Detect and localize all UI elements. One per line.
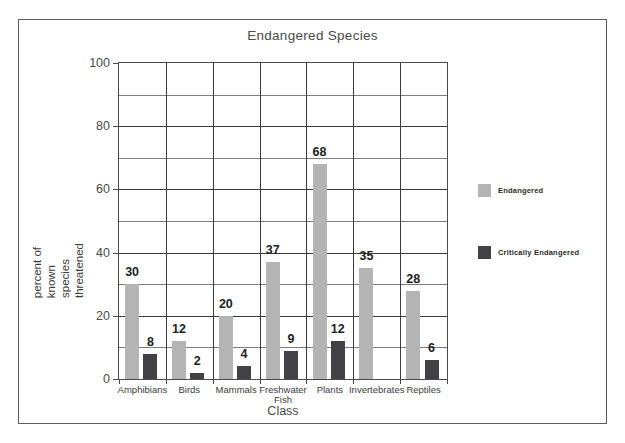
bar-endangered-birds: [172, 341, 186, 379]
y-axis-title-line: percent of: [31, 247, 44, 298]
legend-item-critically-endangered[interactable]: Critically Endangered: [478, 246, 579, 259]
bar-endangered-mammals: [219, 316, 233, 379]
y-axis-tick-mark: [113, 253, 119, 254]
bar-critical-birds: [190, 373, 204, 379]
bar-value-label: 8: [147, 335, 154, 349]
gridline-vertical: [213, 63, 214, 379]
bar-endangered-amphibians: [125, 284, 139, 379]
gridline-horizontal: [119, 95, 447, 96]
figure-canvas: Endangered Species 020406080100308Amphib…: [0, 0, 625, 443]
bar-value-label: 35: [359, 249, 373, 263]
gridline-vertical: [166, 63, 167, 379]
bar-value-label: 20: [219, 297, 233, 311]
bar-endangered-freshwater-fish: [266, 262, 280, 379]
bar-critical-reptiles: [425, 360, 439, 379]
y-axis-tick-mark: [113, 316, 119, 317]
bar-value-label: 2: [194, 354, 201, 368]
x-axis-tick-mark: [400, 379, 401, 384]
gridline-horizontal: [119, 158, 447, 159]
legend-item-endangered[interactable]: Endangered: [478, 184, 543, 197]
gridline-vertical: [306, 63, 307, 379]
plot-area: 020406080100308Amphibians122Birds204Mamm…: [118, 62, 448, 380]
gridline-horizontal: [119, 347, 447, 348]
bar-critical-amphibians: [143, 354, 157, 379]
y-axis-tick-mark: [113, 189, 119, 190]
bar-value-label: 30: [125, 265, 139, 279]
bar-endangered-invertebrates: [359, 268, 373, 379]
x-axis-title: Class: [118, 404, 448, 418]
bar-value-label: 28: [406, 272, 420, 286]
bar-endangered-reptiles: [406, 291, 420, 379]
y-axis-title-line: species: [59, 259, 72, 298]
gridline-vertical: [353, 63, 354, 379]
x-axis-category-label: Reptiles: [406, 385, 440, 395]
x-axis-category-label: Birds: [178, 385, 200, 395]
chart-title: Endangered Species: [18, 28, 607, 43]
bar-value-label: 6: [428, 341, 435, 355]
gridline-horizontal: [119, 253, 447, 254]
bar-critical-plants: [331, 341, 345, 379]
bar-value-label: 37: [266, 243, 280, 257]
x-axis-category-label: Mammals: [216, 385, 257, 395]
bar-value-label: 12: [172, 322, 186, 336]
bar-critical-freshwater-fish: [284, 351, 298, 379]
x-axis-category-label: Amphibians: [118, 385, 168, 395]
x-axis-category-label: Freshwater Fish: [259, 385, 307, 405]
bar-value-label: 4: [241, 347, 248, 361]
x-axis-category-label: Plants: [317, 385, 343, 395]
y-axis-tick-mark: [113, 126, 119, 127]
gridline-horizontal: [119, 221, 447, 222]
gridline-horizontal: [119, 126, 447, 127]
x-axis-category-label: Invertebrates: [349, 385, 404, 395]
x-axis-tick-mark: [447, 379, 448, 384]
x-axis-tick-mark: [166, 379, 167, 384]
legend-label: Endangered: [498, 186, 543, 195]
gridline-horizontal: [119, 284, 447, 285]
gridline-horizontal: [119, 316, 447, 317]
bar-critical-mammals: [237, 366, 251, 379]
bar-value-label: 68: [313, 145, 327, 159]
bar-endangered-plants: [313, 164, 327, 379]
gridline-horizontal: [119, 189, 447, 190]
bar-value-label: 12: [331, 322, 345, 336]
y-axis-tick-mark: [113, 63, 119, 64]
legend-swatch-icon: [478, 184, 491, 197]
legend-swatch-icon: [478, 246, 491, 259]
y-axis-title-line: threatened: [73, 243, 86, 298]
gridline-vertical: [260, 63, 261, 379]
x-axis-tick-mark: [306, 379, 307, 384]
gridline-vertical: [400, 63, 401, 379]
y-axis-title: percent ofknownspeciesthreatened: [30, 178, 86, 298]
x-axis-tick-mark: [213, 379, 214, 384]
bar-value-label: 9: [287, 332, 294, 346]
y-axis-title-line: known: [45, 265, 58, 298]
legend-label: Critically Endangered: [498, 248, 579, 257]
